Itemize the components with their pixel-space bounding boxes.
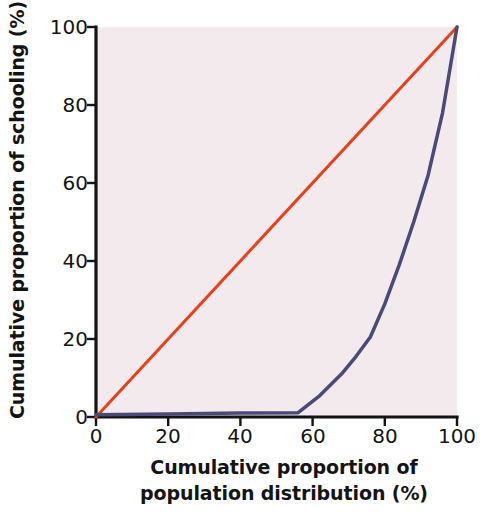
lorenz-curve-figure: Cumulative proportion of schooling (%) 1… xyxy=(0,0,488,517)
plot-area xyxy=(0,0,488,517)
